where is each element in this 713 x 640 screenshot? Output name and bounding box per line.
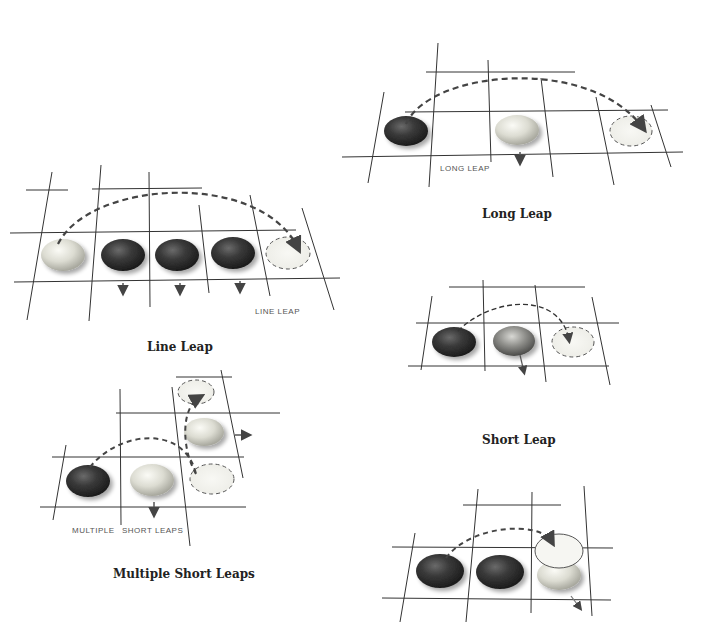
dark-stone xyxy=(66,465,110,497)
long-leap-caption: Long Leap xyxy=(482,207,552,221)
dark-stone xyxy=(211,237,255,269)
light-stone xyxy=(130,464,174,496)
long-leap-label: Long Leap xyxy=(440,164,490,173)
target-ghost-stone xyxy=(552,327,594,357)
light-stone xyxy=(184,418,224,446)
capture-arrow xyxy=(520,355,524,372)
intermediate-ghost-stone xyxy=(190,464,234,494)
grid-lines xyxy=(342,43,683,187)
dark-stone xyxy=(101,239,145,271)
line-leap-label: Line Leap xyxy=(255,307,300,316)
multiple-short-leaps-diagram xyxy=(40,370,280,546)
line-leap-caption: Line Leap xyxy=(147,340,213,354)
diagram-canvas xyxy=(0,0,713,640)
dark-stone xyxy=(416,554,464,588)
short-leaps-label: Short Leaps xyxy=(122,526,183,535)
dark-stone xyxy=(432,327,476,357)
target-ghost-stone xyxy=(535,534,583,568)
target-ghost-stone xyxy=(178,380,214,404)
dark-stone xyxy=(155,239,199,271)
short-leap-caption: Short Leap xyxy=(482,433,556,447)
light-stone xyxy=(41,239,85,271)
multiple-short-leaps-caption: Multiple Short Leaps xyxy=(113,567,255,581)
light-stone xyxy=(495,115,539,145)
mid-stone xyxy=(493,326,535,356)
long-leap-diagram xyxy=(342,43,683,187)
multiple-label: Multiple xyxy=(72,526,115,535)
grid-lines xyxy=(40,370,280,546)
target-ghost-stone xyxy=(610,116,652,146)
target-ghost-stone xyxy=(266,237,310,269)
capture-arrow xyxy=(571,596,580,608)
dark-stone xyxy=(476,555,524,589)
dark-stone xyxy=(384,116,428,146)
